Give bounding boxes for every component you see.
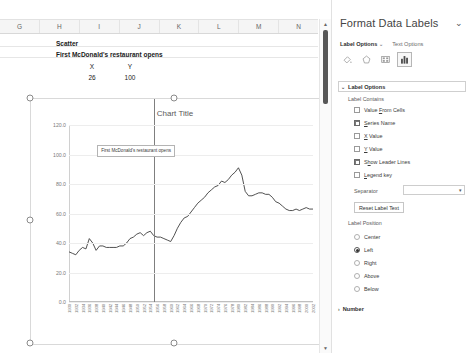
radio-button[interactable] — [354, 260, 360, 266]
x-axis-tick-label: 1974 — [216, 304, 221, 313]
x-axis-tick-label: 1970 — [202, 304, 207, 313]
chart-handle-top-left[interactable] — [27, 95, 34, 102]
y-axis-tick-label: 60.0 — [56, 211, 66, 217]
chart-handle-middle-left[interactable] — [27, 217, 34, 224]
y-axis-tick-label: 20.0 — [56, 270, 66, 276]
radio-left[interactable]: Left — [354, 247, 373, 253]
column-header-h[interactable]: H — [40, 20, 80, 33]
x-axis-tick-label: 1940 — [100, 304, 105, 313]
x-axis-tick-label: 1962 — [175, 304, 180, 313]
radio-button[interactable] — [354, 273, 360, 279]
chart-object[interactable]: Chart Title 0.020.040.060.080.0100.0120.… — [30, 98, 320, 345]
section-label-options[interactable]: ⌄ Label Options — [338, 81, 466, 92]
x-axis-tick-label: 1976 — [222, 304, 227, 313]
x-axis-tick-label: 2000 — [304, 304, 309, 313]
reset-label-text-button[interactable]: Reset Label Text — [354, 202, 404, 213]
scrollbar-thumb[interactable] — [323, 30, 328, 104]
pane-tabs[interactable]: Label Options⌄ Text Options — [340, 41, 423, 47]
checkbox-box[interactable] — [354, 133, 360, 139]
checkbox-label: Legend key — [364, 172, 392, 178]
chart-handle-top-center[interactable] — [171, 95, 178, 102]
column-headers[interactable]: GHIJKLMN — [0, 19, 318, 34]
radio-label: Above — [364, 273, 379, 279]
x-axis-tick-label: 1930 — [67, 304, 72, 313]
x-axis-tick-label: 1990 — [270, 304, 275, 313]
chart-handle-bottom-center[interactable] — [171, 340, 178, 347]
radio-below[interactable]: Below — [354, 286, 379, 292]
x-axis-tick-label: 1936 — [87, 304, 92, 313]
x-axis-tick-label: 1950 — [134, 304, 139, 313]
format-data-labels-pane: Format Data Labels ⌄ Label Options⌄ Text… — [331, 0, 470, 353]
worksheet-area: GHIJKLMN Scatter First McDonald's restau… — [0, 0, 331, 353]
chart-title[interactable]: Chart Title — [31, 109, 319, 118]
chevron-down-icon[interactable]: ⌄ — [379, 41, 383, 47]
radio-button[interactable] — [354, 247, 360, 253]
x-axis-tick-label: 1992 — [277, 304, 282, 313]
column-header-g[interactable]: G — [0, 20, 40, 33]
column-header-l[interactable]: L — [199, 20, 239, 33]
chevron-expanded-icon: ⌄ — [341, 84, 345, 90]
data-label-callout[interactable]: First McDonald's restaurant opens — [97, 145, 175, 157]
checkbox-box[interactable] — [354, 107, 360, 113]
x-axis-tick-label: 1994 — [283, 304, 288, 313]
tab-label-options-text: Label Options — [340, 41, 377, 47]
tab-text-options[interactable]: Text Options — [392, 41, 423, 47]
checkbox-y-value[interactable]: Y Value — [354, 146, 382, 152]
cell-scatter[interactable]: Scatter — [56, 40, 78, 47]
radio-label: Center — [364, 234, 380, 240]
x-axis-tick-label: 1948 — [128, 304, 133, 313]
checkbox-box[interactable] — [354, 120, 360, 126]
scroll-down-icon[interactable]: ▼ — [320, 343, 331, 353]
checkbox-label: X Value — [364, 133, 383, 139]
cell-x-header[interactable]: X — [80, 63, 104, 70]
radio-right[interactable]: Right — [354, 260, 377, 266]
column-header-n[interactable]: N — [279, 20, 318, 33]
pane-header: Format Data Labels ⌄ — [332, 17, 470, 39]
checkbox-show-leader-lines[interactable]: Show Leader Lines — [354, 159, 410, 165]
column-header-j[interactable]: J — [120, 20, 160, 33]
x-axis-tick-label: 1934 — [80, 304, 85, 313]
separator-dropdown[interactable]: ▾ — [403, 185, 465, 195]
size-properties-icon[interactable] — [378, 52, 393, 67]
tab-label-options[interactable]: Label Options⌄ — [340, 41, 383, 47]
vertical-scrollbar[interactable]: ▲ ▼ — [319, 19, 331, 353]
chevron-down-icon[interactable]: ▾ — [459, 187, 462, 193]
x-axis-tick-label: 1980 — [236, 304, 241, 313]
x-axis-tick-label: 1966 — [189, 304, 194, 313]
x-axis-tick-label: 2002 — [311, 304, 316, 313]
chevron-down-icon[interactable]: ⌄ — [455, 19, 463, 28]
fill-line-icon[interactable] — [340, 52, 355, 67]
effects-icon[interactable] — [359, 52, 374, 67]
column-header-i[interactable]: I — [80, 20, 120, 33]
checkbox-x-value[interactable]: X Value — [354, 133, 383, 139]
scroll-up-icon[interactable]: ▲ — [320, 19, 331, 29]
radio-center[interactable]: Center — [354, 234, 380, 240]
checkbox-box[interactable] — [354, 159, 360, 165]
pane-icon-row[interactable] — [340, 52, 412, 67]
section-number[interactable]: › Number — [338, 303, 466, 314]
x-axis-tick-label: 1968 — [195, 304, 200, 313]
checkbox-box[interactable] — [354, 146, 360, 152]
cell-y-value[interactable]: 100 — [118, 74, 142, 81]
cell-y-header[interactable]: Y — [118, 63, 142, 70]
radio-button[interactable] — [354, 286, 360, 292]
radio-above[interactable]: Above — [354, 273, 379, 279]
column-header-k[interactable]: K — [160, 20, 200, 33]
radio-button[interactable] — [354, 234, 360, 240]
column-header-m[interactable]: M — [239, 20, 279, 33]
checkbox-series-name[interactable]: Series Name — [354, 120, 395, 126]
cell-note[interactable]: First McDonald's restaurant opens — [56, 51, 163, 58]
checkbox-box[interactable] — [354, 172, 360, 178]
label-contains-title: Label Contains — [348, 96, 384, 102]
chevron-right-icon: › — [338, 306, 340, 312]
x-axis-tick-label: 1956 — [155, 304, 160, 313]
cell-x-value[interactable]: 26 — [80, 74, 104, 81]
x-axis-tick-label: 1998 — [297, 304, 302, 313]
chart-handle-bottom-left[interactable] — [27, 340, 34, 347]
checkbox-value-from-cells[interactable]: Value From Cells — [354, 107, 405, 113]
x-axis-tick-label: 1988 — [263, 304, 268, 313]
label-options-icon[interactable] — [397, 52, 412, 67]
checkbox-legend-key[interactable]: Legend key — [354, 172, 392, 178]
separator-label: Separator — [354, 188, 378, 194]
y-gridline — [69, 302, 313, 303]
